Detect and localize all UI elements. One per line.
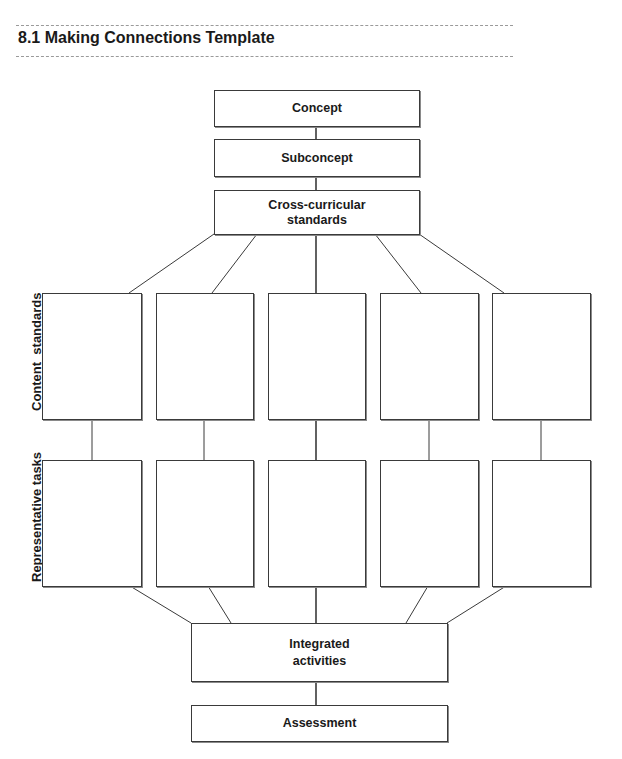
representative-task-box-3[interactable]: [268, 460, 366, 587]
concept-label: Concept: [292, 101, 342, 116]
integrated-activities-label: Integrated activities: [289, 636, 349, 670]
content-standard-box-4[interactable]: [380, 293, 479, 420]
concept-box: Concept: [214, 90, 420, 127]
assessment-label: Assessment: [283, 716, 357, 731]
cross-curricular-standards-label: Cross-curricular standards: [268, 198, 365, 228]
representative-task-box-5[interactable]: [492, 460, 591, 587]
assessment-box: Assessment: [191, 705, 448, 742]
subconcept-label: Subconcept: [281, 151, 353, 166]
cross-curricular-standards-box: Cross-curricular standards: [214, 190, 420, 235]
representative-task-box-1[interactable]: [42, 460, 142, 587]
subconcept-box: Subconcept: [214, 139, 420, 177]
content-standard-box-3[interactable]: [268, 293, 366, 420]
content-standard-box-2[interactable]: [156, 293, 254, 420]
representative-task-box-2[interactable]: [156, 460, 254, 587]
representative-task-box-4[interactable]: [380, 460, 479, 587]
content-standard-box-1[interactable]: [42, 293, 142, 420]
integrated-activities-box: Integrated activities: [191, 623, 448, 682]
content-standard-box-5[interactable]: [492, 293, 591, 420]
